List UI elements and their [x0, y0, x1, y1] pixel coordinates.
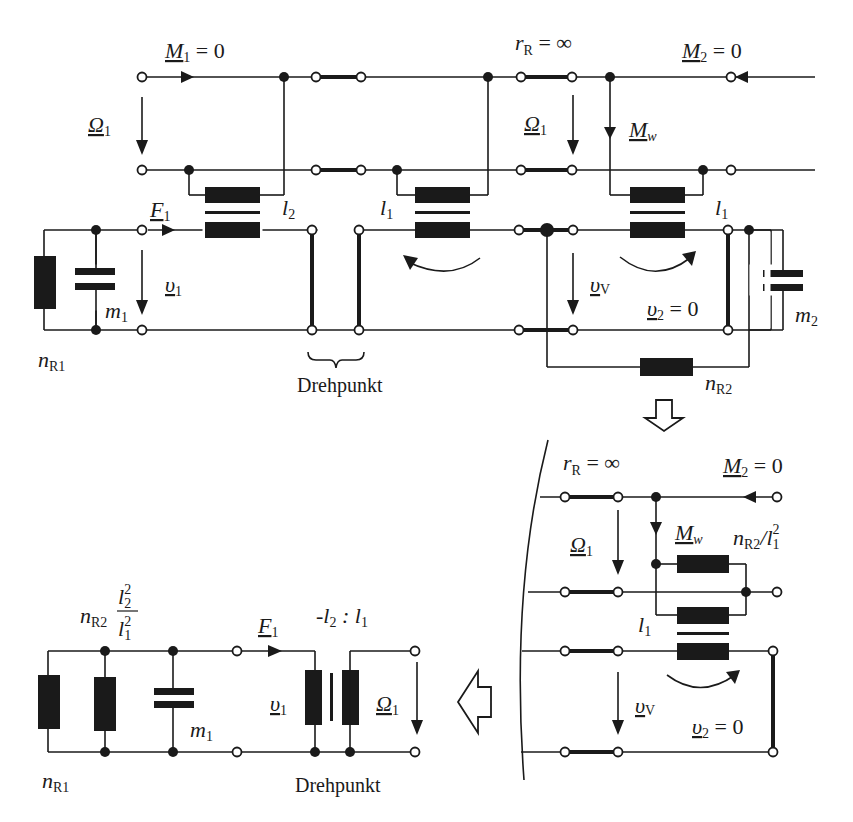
- svg-text:υ1: υ1: [165, 272, 182, 299]
- svg-text:l1: l1: [380, 195, 393, 222]
- label-m1-bottom: m: [190, 717, 206, 742]
- svg-text:m1: m1: [105, 298, 128, 325]
- label-m1: m: [105, 298, 121, 323]
- svg-text:υV: υV: [635, 693, 655, 718]
- svg-text:l12: l12: [118, 614, 131, 643]
- svg-text:l22: l22: [118, 582, 131, 611]
- capacitor-m1-plate2: [75, 283, 115, 290]
- svg-text:m2: m2: [795, 302, 818, 329]
- svg-text:M2 = 0: M2 = 0: [681, 38, 742, 65]
- label-m2: m: [795, 302, 811, 327]
- svg-text:nR2: nR2: [80, 603, 107, 630]
- capacitor-m1-plate1: [75, 268, 115, 275]
- label-nR2-over-l1sq: n: [733, 525, 744, 550]
- label-pivot-top: Drehpunkt: [297, 374, 383, 397]
- svg-text:nR2/l12: nR2/l12: [733, 522, 780, 552]
- svg-text:υ2 = 0: υ2 = 0: [692, 714, 744, 741]
- circuit-diagram: M1 = 0 rR = ∞ M2 = 0 Ω1 Ω1 Mw F1 l2 l1 l…: [0, 0, 853, 822]
- svg-text:l2: l2: [282, 195, 295, 222]
- svg-text:-l2 : l1: -l2 : l1: [316, 603, 368, 630]
- label-Mw-right: M: [674, 520, 695, 545]
- label-omega1-right: Ω: [570, 532, 586, 557]
- svg-text:Mw: Mw: [674, 520, 703, 547]
- label-nR2: n: [705, 370, 716, 395]
- right-circuit: rR = ∞ M2 = 0 Ω1 Mw nR2/l12 l1 υV υ2 = 0: [520, 440, 783, 780]
- transform-left-arrow: [458, 671, 491, 733]
- svg-text:nR1: nR1: [38, 347, 65, 374]
- svg-text:F1: F1: [257, 613, 278, 640]
- svg-text:υ1: υ1: [270, 691, 287, 718]
- label-v2-right: υ: [692, 714, 702, 739]
- label-pivot-bottom: Drehpunkt: [295, 774, 381, 797]
- svg-text:nR1: nR1: [42, 768, 69, 795]
- svg-text:rR = ∞: rR = ∞: [563, 450, 620, 478]
- label-F1: F: [149, 197, 164, 222]
- svg-text:F1: F1: [149, 197, 170, 224]
- label-omega1-left: Ω: [88, 112, 104, 137]
- resistor-nR2-scaled: [94, 677, 116, 731]
- label-nR2-bottom: n: [80, 603, 91, 628]
- svg-text:υ2 = 0: υ2 = 0: [647, 296, 699, 323]
- label-vV: υ: [590, 272, 600, 297]
- svg-text:M1 = 0: M1 = 0: [164, 38, 225, 65]
- svg-text:m1: m1: [190, 717, 213, 744]
- label-omega1-mid: Ω: [524, 111, 540, 136]
- svg-text:M2 = 0: M2 = 0: [722, 453, 783, 480]
- svg-text:Mw: Mw: [628, 117, 657, 144]
- bottom-left-circuit: nR2 l22 l12 F1 -l2 : l1 υ1 Ω1 m1 nR1 Dre…: [38, 582, 423, 797]
- svg-text:υV: υV: [590, 272, 610, 297]
- svg-text:rR = ∞: rR = ∞: [515, 30, 572, 58]
- label-v2: υ: [647, 296, 657, 321]
- label-v1: υ: [165, 272, 175, 297]
- label-F1-bottom: F: [257, 613, 272, 638]
- label-Mw: M: [628, 117, 649, 142]
- resistor-nR2: [640, 358, 693, 376]
- label-v1-bottom: υ: [270, 691, 280, 716]
- svg-text:l1: l1: [715, 195, 728, 222]
- label-vV-right: υ: [635, 693, 645, 718]
- transform-down-arrow: [645, 400, 683, 431]
- resistor-nR1-bottom: [38, 675, 60, 729]
- label-M1: M: [164, 38, 185, 63]
- label-ratio: -l: [316, 603, 329, 628]
- label-M2-right: M: [722, 453, 743, 478]
- arrow-M1: [181, 71, 194, 83]
- svg-text:nR2: nR2: [705, 370, 732, 397]
- svg-text:Ω1: Ω1: [570, 532, 593, 559]
- svg-text:Ω1: Ω1: [376, 691, 399, 718]
- top-circuit: M1 = 0 rR = ∞ M2 = 0 Ω1 Ω1 Mw F1 l2 l1 l…: [34, 30, 818, 397]
- label-nR1: n: [38, 347, 49, 372]
- label-nR1-bottom: n: [42, 768, 53, 793]
- svg-text:Ω1: Ω1: [524, 111, 547, 138]
- svg-text:l1: l1: [638, 612, 651, 639]
- label-M2: M: [681, 38, 702, 63]
- svg-text:Ω1: Ω1: [88, 112, 111, 139]
- resistor-nR1: [34, 256, 56, 309]
- arrow-M2: [735, 71, 748, 83]
- label-omega1-bottom: Ω: [376, 691, 392, 716]
